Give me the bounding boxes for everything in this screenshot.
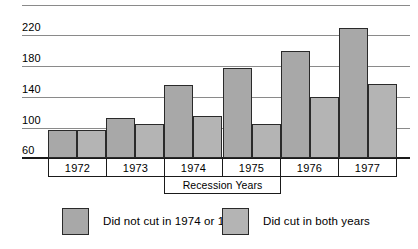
bar-1977-series1 [368,84,397,158]
legend-label-did-cut: Did cut in both years [263,215,370,227]
bar-1972-series1 [77,130,106,158]
bar-1972-series0 [48,130,77,158]
recession-years-bracket: Recession Years [164,177,281,194]
bar-1977-series0 [339,28,368,158]
bars-group [0,0,418,170]
bar-1976-series1 [310,97,339,158]
bar-1975-series0 [223,68,252,158]
bar-chart-figure: 220 180 140 100 60 197219731974197519761… [0,0,418,249]
bar-1976-series0 [281,51,310,158]
year-axis-cell-1976: 1976 [281,159,339,176]
plot-area: 220 180 140 100 60 [0,0,418,170]
bar-1975-series1 [252,124,281,158]
chart-legend: Did not cut in 1974 or 1975 Did cut in b… [0,205,418,245]
year-axis-cell-1974: 1974 [165,159,223,176]
year-axis-cell-1975: 1975 [223,159,281,176]
year-axis-cell-1977: 1977 [339,159,396,176]
legend-entry-did-cut: Did cut in both years [222,205,370,237]
recession-years-label: Recession Years [183,179,263,191]
bar-1974-series1 [193,116,222,158]
bar-1973-series1 [135,124,164,158]
year-axis: 197219731974197519761977 [48,158,397,177]
bar-1974-series0 [164,85,193,158]
legend-swatch-did-cut [222,208,249,235]
legend-swatch-did-not-cut [62,208,89,235]
bar-1973-series0 [106,118,135,158]
legend-entry-did-not-cut: Did not cut in 1974 or 1975 [62,205,244,237]
year-axis-cell-1972: 1972 [49,159,107,176]
year-axis-cell-1973: 1973 [107,159,165,176]
